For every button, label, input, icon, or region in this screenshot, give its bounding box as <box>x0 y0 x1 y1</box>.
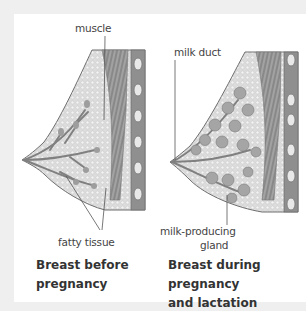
label-muscle: muscle <box>75 22 111 34</box>
label-milk-duct: milk duct <box>174 46 221 58</box>
breast-during-pregnancy-drawing <box>170 52 298 225</box>
label-gland: gland <box>200 239 228 251</box>
caption-during-pregnancy: Breast during pregnancy and lactation <box>168 256 306 311</box>
label-milk-producing: milk-producing <box>160 225 236 237</box>
label-fatty-tissue: fatty tissue <box>58 236 115 248</box>
breast-before-pregnancy-drawing <box>22 36 145 230</box>
caption-before-pregnancy: Breast before pregnancy <box>36 256 129 294</box>
